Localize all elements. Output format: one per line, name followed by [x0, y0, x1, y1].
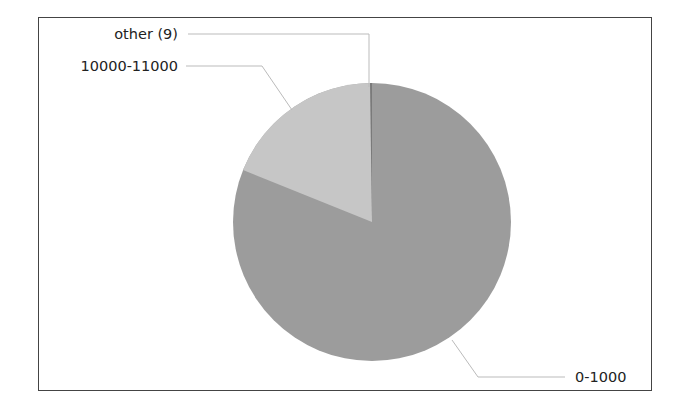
label-10000-11000: 10000-11000	[40, 57, 178, 75]
leader-line-other	[188, 34, 369, 87]
leader-line-0-1000	[452, 340, 565, 377]
label-0-1000: 0-1000	[575, 368, 626, 386]
leader-line-10000-11000	[186, 66, 292, 110]
label-other: other (9)	[60, 25, 178, 43]
